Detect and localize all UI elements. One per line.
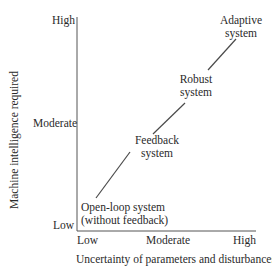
connector-openloop-feedback bbox=[96, 152, 130, 198]
node-feedback: Feedback system bbox=[132, 134, 182, 160]
node-adaptive-line2: system bbox=[214, 27, 268, 40]
node-openloop-line1: Open-loop system bbox=[81, 201, 168, 214]
x-tick-moderate: Moderate bbox=[146, 234, 190, 247]
node-openloop: Open-loop system (without feedback) bbox=[81, 201, 168, 227]
node-adaptive: Adaptive system bbox=[214, 14, 268, 40]
connector-feedback-robust bbox=[153, 103, 185, 134]
node-robust-line1: Robust bbox=[174, 73, 218, 86]
x-tick-low: Low bbox=[77, 234, 98, 247]
node-openloop-line2: (without feedback) bbox=[81, 214, 168, 227]
y-tick-high: High bbox=[52, 14, 75, 27]
node-feedback-line1: Feedback bbox=[132, 134, 182, 147]
node-feedback-line2: system bbox=[132, 147, 182, 160]
y-axis-label: Machine intelligence required bbox=[8, 71, 20, 209]
y-tick-moderate: Moderate bbox=[33, 117, 77, 130]
node-robust: Robust system bbox=[174, 73, 218, 99]
x-tick-high: High bbox=[233, 234, 256, 247]
node-adaptive-line1: Adaptive bbox=[214, 14, 268, 27]
connector-robust-adaptive bbox=[208, 39, 236, 70]
x-axis-label: Uncertainty of parameters and disturbanc… bbox=[76, 253, 272, 266]
y-tick-low: Low bbox=[53, 219, 74, 232]
node-robust-line2: system bbox=[174, 86, 218, 99]
